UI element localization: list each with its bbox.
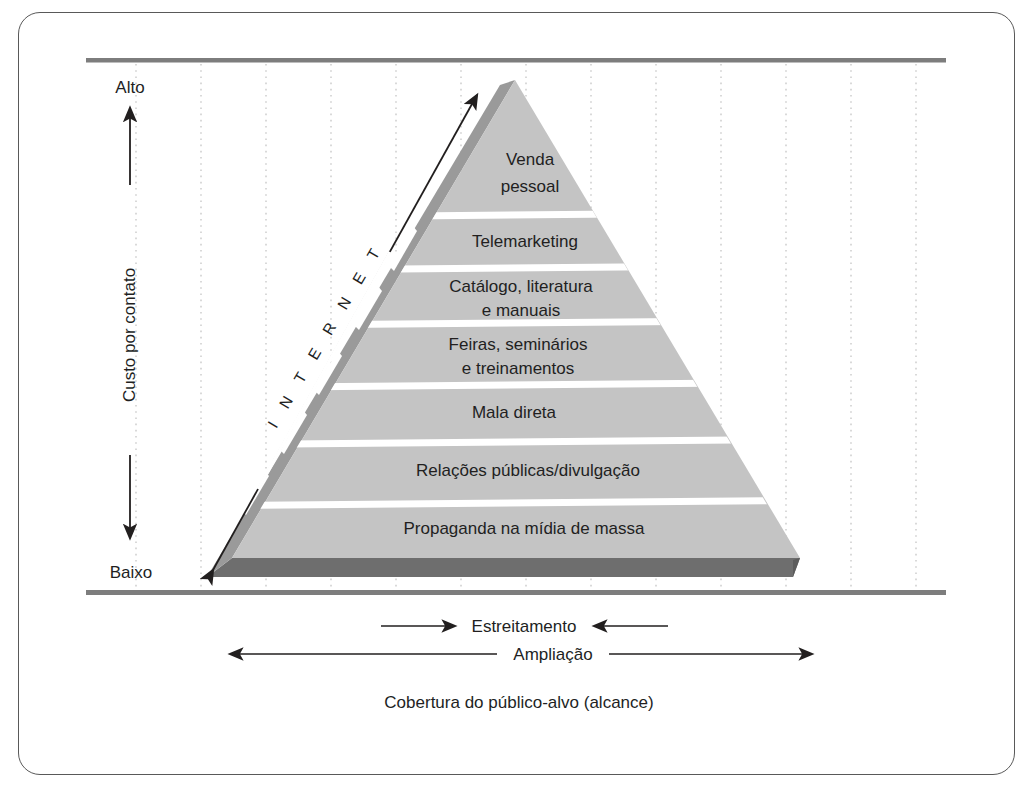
tier-label-venda-pessoal-line2: pessoal [501,177,560,196]
bottom-rule [86,590,946,595]
axis-low-label: Baixo [110,563,153,582]
tier-label-mala-direta: Mala direta [472,403,557,422]
x-axis-caption: Cobertura do público-alvo (alcance) [384,693,653,712]
pyramid-diagram: Venda pessoal Telemarketing Catálogo, li… [0,0,1033,795]
narrowing-label: Estreitamento [472,617,577,636]
tier-label-propaganda: Propaganda na mídia de massa [404,519,646,538]
tier-label-relacoes-publicas: Relações públicas/divulgação [416,461,640,480]
y-axis-label: Custo por contato [120,268,139,402]
widening-label: Ampliação [513,645,592,664]
tier-label-telemarketing: Telemarketing [472,232,578,251]
pyramid-base-slab [207,558,800,577]
tier-label-catalogo-line1: Catálogo, literatura [449,277,593,296]
pyramid-base-slab-right [793,558,800,577]
tier-label-feiras-line1: Feiras, seminários [449,335,588,354]
tier-label-catalogo-line2: e manuais [482,301,560,320]
tier-label-feiras-line2: e treinamentos [462,359,574,378]
tier-label-venda-pessoal-line1: Venda [506,150,555,169]
top-rule [86,58,946,63]
figure-canvas: Venda pessoal Telemarketing Catálogo, li… [0,0,1033,795]
axis-high-label: Alto [115,78,144,97]
